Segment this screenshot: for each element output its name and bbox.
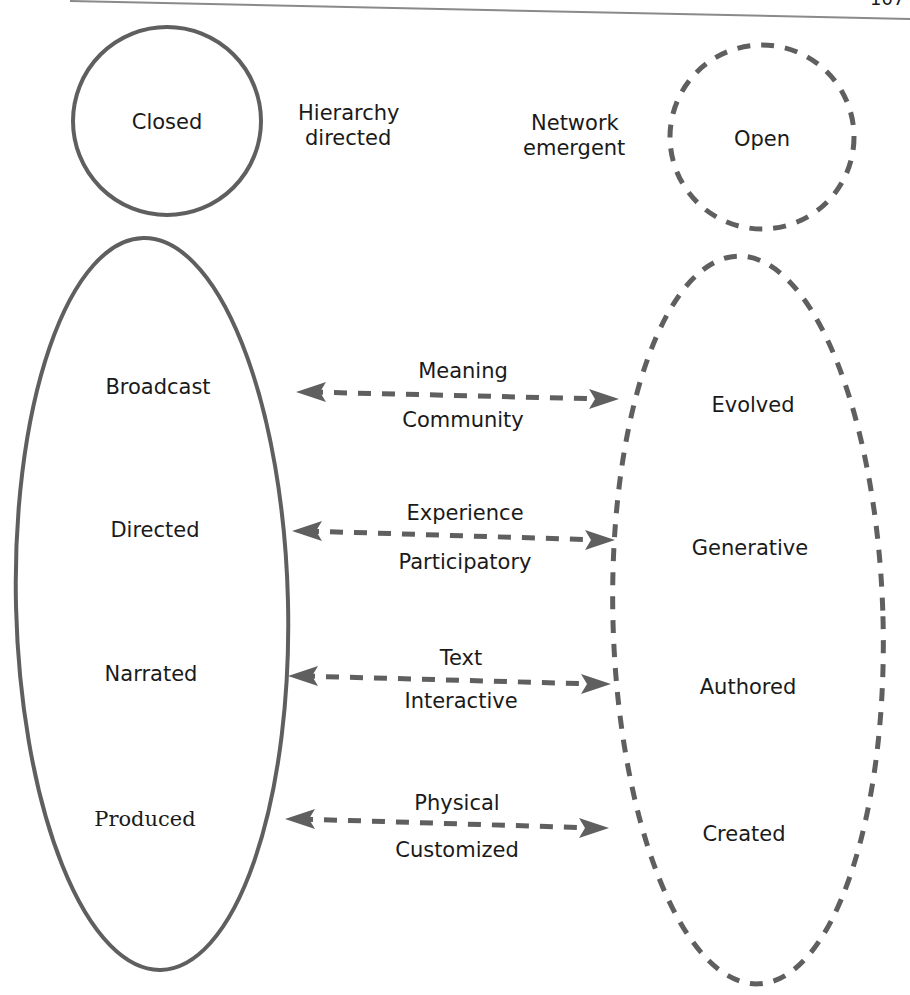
left-item-directed: Directed	[110, 518, 199, 542]
connector-meaning-community: Meaning Community	[296, 359, 619, 432]
right-item-created: Created	[702, 822, 785, 846]
connector-top-label: Physical	[414, 791, 499, 815]
network-line1: Network	[531, 111, 620, 135]
left-item-narrated: Narrated	[105, 662, 198, 686]
diagram-canvas: 107 Closed Hierarchy directed Network em…	[0, 0, 910, 995]
closed-node: Closed	[73, 27, 261, 215]
right-item-evolved: Evolved	[711, 393, 794, 417]
connector-experience-participatory: Experience Participatory	[292, 501, 615, 574]
hierarchy-label: Hierarchy directed	[298, 101, 400, 150]
right-item-generative: Generative	[692, 536, 808, 560]
closed-label: Closed	[132, 110, 203, 134]
arrowhead-right-icon	[589, 389, 619, 409]
connector-bottom-label: Community	[402, 408, 524, 432]
hierarchy-line1: Hierarchy	[298, 101, 400, 125]
open-label: Open	[734, 127, 790, 151]
network-label: Network emergent	[523, 111, 625, 160]
open-node: Open	[670, 45, 854, 229]
left-item-produced: Produced	[94, 807, 195, 831]
connector-top-label: Meaning	[418, 359, 508, 383]
arrowhead-right-icon	[585, 530, 615, 550]
connector-bottom-label: Customized	[395, 838, 519, 862]
network-line2: emergent	[523, 136, 625, 160]
connector-top-label: Experience	[406, 501, 523, 525]
closed-column-ellipse: Broadcast Directed Narrated Produced	[7, 235, 297, 973]
arrowhead-right-icon	[581, 674, 611, 694]
connector-bottom-label: Interactive	[404, 689, 517, 713]
arrowhead-right-icon	[579, 818, 609, 838]
hierarchy-line2: directed	[305, 126, 391, 150]
page-number: 107	[870, 0, 904, 9]
header-rule	[70, 1, 910, 19]
right-item-authored: Authored	[700, 675, 797, 699]
connector-text-interactive: Text Interactive	[288, 646, 611, 713]
connector-bottom-label: Participatory	[398, 550, 531, 574]
open-column-ellipse: Evolved Generative Authored Created	[603, 252, 893, 987]
left-item-broadcast: Broadcast	[105, 375, 210, 399]
connector-top-label: Text	[439, 646, 482, 670]
connector-physical-customized: Physical Customized	[285, 791, 609, 862]
